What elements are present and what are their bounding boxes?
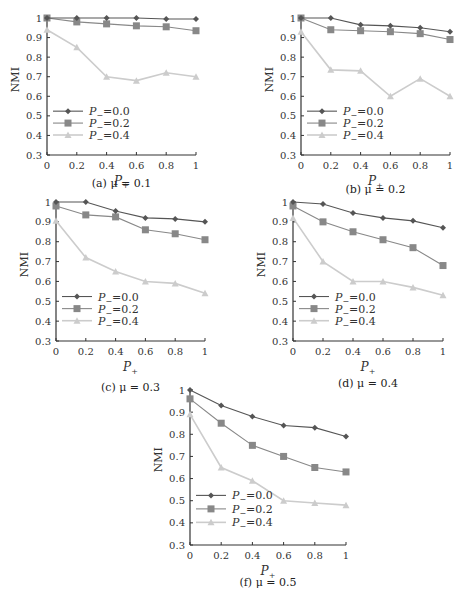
square-marker (447, 36, 454, 43)
diamond-marker (142, 215, 148, 221)
diamond-marker (328, 15, 334, 21)
y-tick-label: 1 (282, 197, 288, 208)
y-axis-label: NMI (9, 67, 22, 92)
square-marker (327, 26, 334, 33)
square-marker (172, 230, 179, 237)
x-tick-label: 0.6 (276, 550, 292, 561)
square-marker (202, 236, 209, 243)
y-tick-label: 0.6 (35, 276, 51, 287)
y-tick-label: 0.6 (26, 91, 42, 102)
x-tick-label: 0.8 (307, 550, 323, 561)
series-line (53, 217, 209, 296)
x-tick-label: 0.8 (405, 346, 421, 357)
chart-panel-b: 0.30.40.50.60.70.80.9100.20.40.60.81NMIP… (301, 18, 450, 155)
y-tick-label: 0.8 (169, 429, 185, 440)
chart-panel-a: 0.30.40.50.60.70.80.9100.20.40.60.81NMIP… (47, 18, 196, 155)
chart-panel-c: 0.30.40.50.60.70.80.9100.20.40.60.81NMIP… (56, 202, 205, 341)
diamond-marker (74, 294, 80, 300)
legend-entry: P−=0.4 (231, 516, 273, 531)
triangle-marker (218, 464, 225, 471)
y-tick-label: 0.4 (26, 130, 42, 141)
x-tick-label: 0.2 (69, 160, 85, 171)
x-tick-label: 0.2 (315, 346, 331, 357)
square-marker (380, 236, 387, 243)
y-tick-label: 0.5 (272, 296, 288, 307)
legend-entry: P−=0.4 (88, 129, 130, 144)
x-tick-label: 0.6 (375, 346, 391, 357)
x-tick-label: 0 (298, 160, 304, 171)
series-line (290, 214, 447, 298)
axes: 0.30.40.50.60.70.80.9100.20.40.60.81NMIP… (18, 197, 208, 377)
diamond-marker (387, 23, 393, 29)
x-tick-label: 0.4 (353, 160, 369, 171)
y-tick-label: 0.3 (35, 336, 51, 347)
x-tick-label: 0 (187, 550, 193, 561)
y-tick-label: 0.4 (272, 316, 288, 327)
y-tick-label: 1 (45, 197, 51, 208)
diamond-marker (312, 425, 318, 431)
y-tick-label: 0.9 (169, 407, 185, 418)
legend-entry: P−=0.4 (342, 129, 384, 144)
square-marker (142, 226, 149, 233)
square-marker (133, 22, 140, 29)
y-axis-label: NMI (152, 447, 165, 472)
x-tick-label: 0.8 (167, 346, 183, 357)
y-tick-label: 0.6 (280, 91, 296, 102)
y-tick-label: 0.3 (272, 336, 288, 347)
diamond-marker (104, 15, 110, 21)
chart-caption: (b) μ = 0.2 (336, 183, 416, 196)
axes: 0.30.40.50.60.70.80.9100.20.40.60.81NMIP… (9, 13, 199, 191)
diamond-marker (193, 16, 199, 22)
diamond-marker (133, 15, 139, 21)
square-marker (193, 27, 200, 34)
series-line (290, 199, 446, 231)
chart-caption: (c) μ = 0.3 (91, 381, 171, 394)
x-tick-label: 0.2 (213, 550, 229, 561)
square-marker (311, 464, 318, 471)
chart-caption: (d) μ = 0.4 (328, 377, 408, 390)
diamond-marker (410, 218, 416, 224)
square-marker (350, 228, 357, 235)
y-tick-label: 0.6 (272, 276, 288, 287)
x-tick-label: 0.2 (78, 346, 94, 357)
x-tick-label: 0 (290, 346, 296, 357)
square-marker (410, 244, 417, 251)
diamond-marker (83, 199, 89, 205)
y-tick-label: 0.3 (26, 150, 42, 161)
y-tick-label: 0.6 (169, 473, 185, 484)
square-marker (74, 305, 81, 312)
x-tick-label: 1 (343, 550, 349, 561)
x-axis-label: P+ (360, 360, 376, 376)
y-tick-label: 0.9 (280, 32, 296, 43)
y-tick-label: 0.5 (280, 110, 296, 121)
series-line (290, 202, 447, 269)
square-marker (208, 505, 215, 512)
diamond-marker (447, 29, 453, 35)
triangle-marker (73, 44, 80, 51)
y-tick-label: 0.3 (280, 150, 296, 161)
series-line (187, 395, 350, 475)
series-line (53, 202, 209, 243)
square-marker (112, 213, 119, 220)
legend: P−=0.0P−=0.2P−=0.4 (53, 105, 130, 144)
triangle-marker (417, 75, 424, 82)
x-tick-label: 0.4 (244, 550, 260, 561)
x-tick-label: 1 (447, 160, 453, 171)
y-tick-label: 0.4 (169, 517, 185, 528)
x-tick-label: 0.8 (412, 160, 428, 171)
diamond-marker (343, 434, 349, 440)
diamond-marker (249, 414, 255, 420)
square-marker (387, 28, 394, 35)
y-tick-label: 0.3 (169, 540, 185, 551)
y-axis-label: NMI (255, 252, 268, 277)
diamond-marker (113, 208, 119, 214)
x-tick-label: 0 (44, 160, 50, 171)
y-tick-label: 0.5 (169, 495, 185, 506)
y-tick-label: 0.8 (35, 236, 51, 247)
axes: 0.30.40.50.60.70.80.9100.20.40.60.81NMIP… (263, 13, 453, 191)
x-tick-label: 0.4 (99, 160, 115, 171)
chart-panel-f: 0.30.40.50.60.70.80.9100.20.40.60.81NMIP… (190, 390, 346, 545)
y-tick-label: 0.5 (26, 110, 42, 121)
square-marker (65, 120, 72, 127)
x-tick-label: 0.4 (108, 346, 124, 357)
